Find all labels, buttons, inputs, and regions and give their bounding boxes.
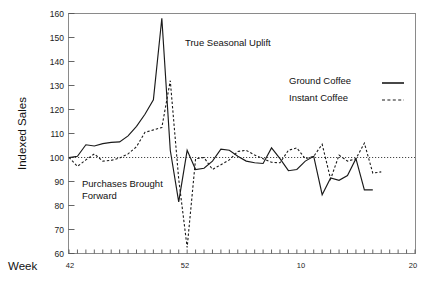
x-tick-label: 42 <box>66 261 74 270</box>
annotation-purchases-brought-forward-line1: Purchases Brought <box>82 178 163 189</box>
x-axis-title: Week <box>8 260 37 272</box>
y-tick-label: 90 <box>55 177 65 187</box>
line-chart-canvas: 160 150 140 130 120 110 100 90 80 70 60 … <box>0 0 431 288</box>
y-tick-label: 60 <box>55 249 65 259</box>
y-tick-label: 110 <box>50 129 64 139</box>
x-tick-label: 20 <box>409 261 417 270</box>
annotation-true-seasonal-uplift: True Seasonal Uplift <box>185 37 271 48</box>
chart-container: 160 150 140 130 120 110 100 90 80 70 60 … <box>0 0 431 288</box>
x-tick-label: 10 <box>297 261 305 270</box>
legend-label-instant-coffee: Instant Coffee <box>289 92 348 103</box>
y-tick-label: 160 <box>50 9 64 19</box>
y-tick-label: 150 <box>50 33 64 43</box>
y-tick-label: 140 <box>50 57 64 67</box>
y-tick-label: 80 <box>55 201 65 211</box>
legend-label-ground-coffee: Ground Coffee <box>289 75 351 86</box>
y-tick-label: 130 <box>50 81 64 91</box>
y-tick-label: 120 <box>50 105 64 115</box>
y-tick-label: 100 <box>50 153 64 163</box>
y-axis-title: Indexed Sales <box>16 97 28 170</box>
x-tick-label: 52 <box>181 261 189 270</box>
annotation-purchases-brought-forward-line2: Forward <box>82 190 117 201</box>
y-tick-label: 70 <box>55 225 65 235</box>
